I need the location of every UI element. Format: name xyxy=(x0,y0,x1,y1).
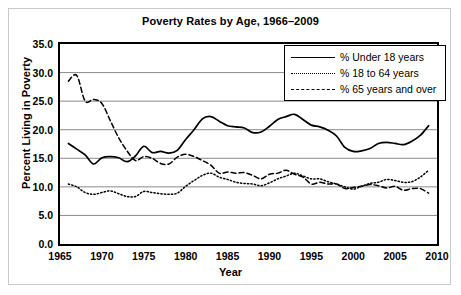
x-axis-label: Year xyxy=(9,266,452,278)
y-tick-label: 25.0 xyxy=(33,95,53,107)
x-tick-label: 1985 xyxy=(216,250,239,262)
legend-label: % 18 to 64 years xyxy=(340,67,419,79)
x-tick-label: 1970 xyxy=(90,250,113,262)
x-tick-label: 2000 xyxy=(342,250,365,262)
legend-item: % Under 18 years xyxy=(289,49,441,65)
legend-item: % 65 years and over xyxy=(289,81,441,97)
legend-swatch-dashed-icon xyxy=(289,84,337,94)
plot-area-wrapper: 0.05.010.015.020.025.030.035.0 196519701… xyxy=(58,42,439,246)
x-tick-label: 1990 xyxy=(258,250,281,262)
y-tick-label: 35.0 xyxy=(33,38,53,50)
x-tick-label: 1995 xyxy=(300,250,323,262)
legend-swatch-dotted-icon xyxy=(289,68,337,78)
series-line xyxy=(68,114,428,164)
x-tick-label: 2005 xyxy=(383,250,406,262)
y-tick-label: 30.0 xyxy=(33,67,53,79)
y-axis-label: Percent Living in Poverty xyxy=(20,28,32,218)
chart-title: Poverty Rates by Age, 1966–2009 xyxy=(9,15,452,27)
x-tick-label: 1980 xyxy=(174,250,197,262)
legend-label: % 65 years and over xyxy=(340,83,436,95)
y-tick-label: 10.0 xyxy=(33,181,53,193)
chart-figure: Poverty Rates by Age, 1966–2009 Percent … xyxy=(8,8,451,285)
legend-label: % Under 18 years xyxy=(340,51,424,63)
y-tick-label: 5.0 xyxy=(38,209,53,221)
x-tick-label: 1975 xyxy=(132,250,155,262)
legend-swatch-solid-icon xyxy=(289,52,337,62)
y-tick-label: 15.0 xyxy=(33,152,53,164)
x-tick-label: 1965 xyxy=(48,250,71,262)
x-tick-label: 2010 xyxy=(425,250,448,262)
y-tick-label: 0.0 xyxy=(38,238,53,250)
chart-legend: % Under 18 years % 18 to 64 years % 65 y… xyxy=(284,45,446,101)
y-tick-label: 20.0 xyxy=(33,124,53,136)
legend-item: % 18 to 64 years xyxy=(289,65,441,81)
